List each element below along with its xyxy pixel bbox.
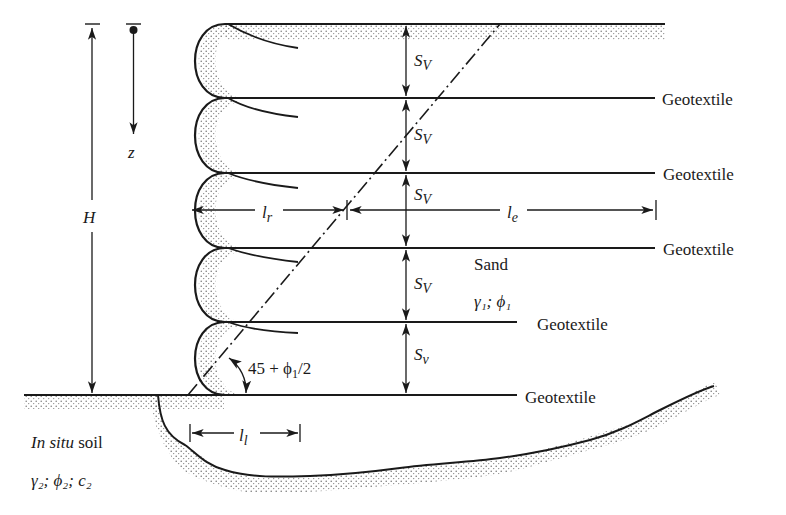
svg-text:SV: SV (414, 185, 433, 207)
angle-arc (229, 358, 246, 393)
backfill-props-label: γ₁; ϕ₁ (474, 292, 511, 311)
svg-text:Sv: Sv (414, 345, 430, 367)
height-dimension: H (82, 24, 100, 393)
spacing-2-sub: V (423, 132, 433, 147)
foundation-name-label: In situ soil (30, 433, 103, 452)
svg-text:SV: SV (414, 51, 433, 73)
foundation-props-label: γ₂; ϕ₂; c₂ (31, 471, 92, 490)
svg-text:SV: SV (414, 274, 433, 296)
depth-label: z (127, 143, 135, 162)
length-r-label: lr (262, 203, 273, 225)
spacing-3-sub: V (423, 192, 433, 207)
depth-arrow: z (126, 24, 141, 162)
wrap-returns (228, 24, 298, 333)
height-label: H (82, 208, 97, 227)
geotextile-label-5: Geotextile (525, 388, 596, 407)
geotextile-label-4: Geotextile (537, 315, 608, 334)
geotextile-label-3: Geotextile (663, 240, 734, 259)
geotextile-label-2: Geotextile (663, 165, 734, 184)
length-l-label: ll (239, 426, 248, 448)
geotextile-label-1: Geotextile (662, 90, 733, 109)
spacing-1-sub: V (423, 58, 433, 73)
length-e-label: le (507, 203, 518, 225)
spacing-4-sub: V (423, 281, 433, 296)
geotextile-wall-diagram: H z SV SV SV SV Sv lr le ll (0, 0, 786, 515)
stipple-regions (24, 24, 720, 493)
spacing-5-sub: v (423, 352, 430, 367)
svg-text:SV: SV (414, 125, 433, 147)
angle-label: 45 + ϕ1/2 (248, 359, 311, 381)
backfill-name-label: Sand (474, 255, 509, 274)
